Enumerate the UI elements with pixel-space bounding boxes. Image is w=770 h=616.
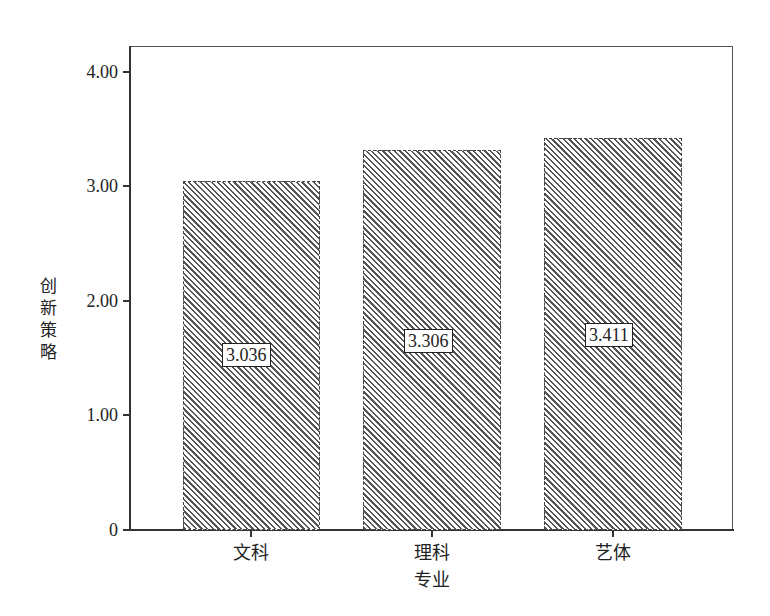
value-label: 3.036 xyxy=(222,343,271,367)
x-tick xyxy=(250,531,252,537)
y-tick-3 xyxy=(123,185,130,187)
y-tick-label: 0 xyxy=(109,521,118,539)
y-tick-2 xyxy=(123,300,130,302)
y-tick-1 xyxy=(123,414,130,416)
value-label: 3.411 xyxy=(585,323,633,347)
y-tick-label: 4.00 xyxy=(87,63,119,81)
x-tick xyxy=(431,531,433,537)
y-tick-label: 1.00 xyxy=(87,406,119,424)
x-tick-label: 文科 xyxy=(211,538,291,564)
y-tick-label: 3.00 xyxy=(87,177,119,195)
y-tick-label: 2.00 xyxy=(87,292,119,310)
x-tick-label: 理科 xyxy=(392,538,472,564)
x-axis-title: 专业 xyxy=(392,565,472,591)
x-tick xyxy=(612,531,614,537)
y-axis-line xyxy=(129,46,131,531)
y-axis-title: 创新策略 xyxy=(38,275,58,363)
y-tick-4 xyxy=(123,71,130,73)
y-tick-0 xyxy=(123,529,130,531)
value-label: 3.306 xyxy=(404,329,453,353)
x-tick-label: 艺体 xyxy=(573,538,653,564)
